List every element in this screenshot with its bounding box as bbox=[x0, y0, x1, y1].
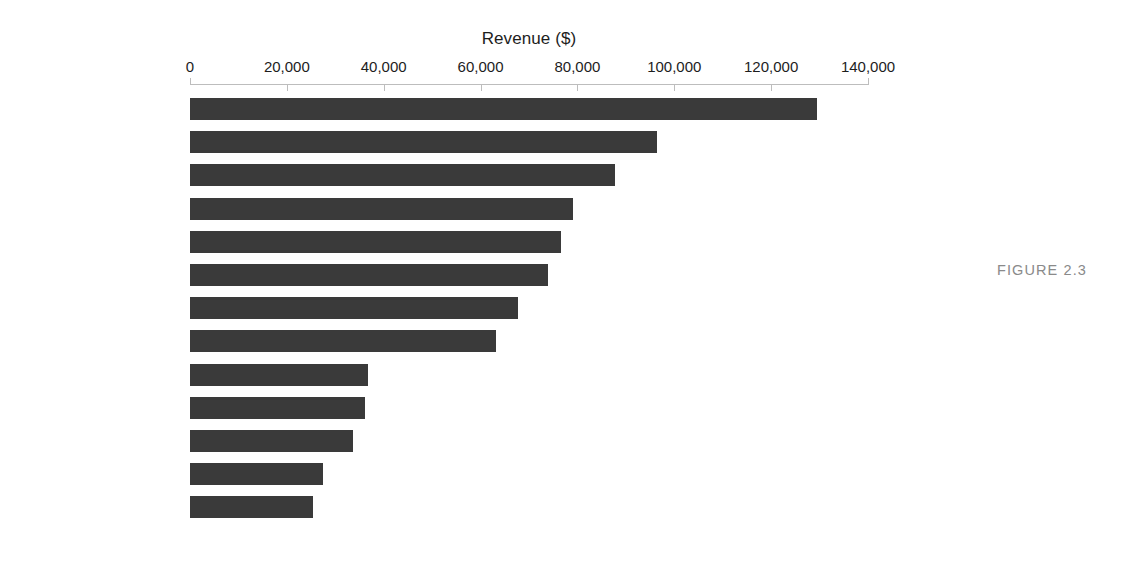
bar[interactable] bbox=[190, 198, 573, 220]
bar[interactable] bbox=[190, 164, 615, 186]
bar[interactable] bbox=[190, 496, 313, 518]
bar[interactable] bbox=[190, 397, 365, 419]
bar[interactable] bbox=[190, 364, 368, 386]
bar[interactable] bbox=[190, 330, 496, 352]
bar[interactable] bbox=[190, 264, 548, 286]
figure-container: Revenue ($) 020,00040,00060,00080,000100… bbox=[0, 0, 1123, 567]
bar-plot-area: ColombianLemonCaffe MochaDecaf EspressoC… bbox=[0, 0, 1123, 567]
bar[interactable] bbox=[190, 297, 518, 319]
bar[interactable] bbox=[190, 98, 817, 120]
bar[interactable] bbox=[190, 430, 353, 452]
figure-caption: FIGURE 2.3 bbox=[997, 262, 1087, 278]
bar[interactable] bbox=[190, 131, 657, 153]
bar[interactable] bbox=[190, 231, 561, 253]
bar[interactable] bbox=[190, 463, 323, 485]
